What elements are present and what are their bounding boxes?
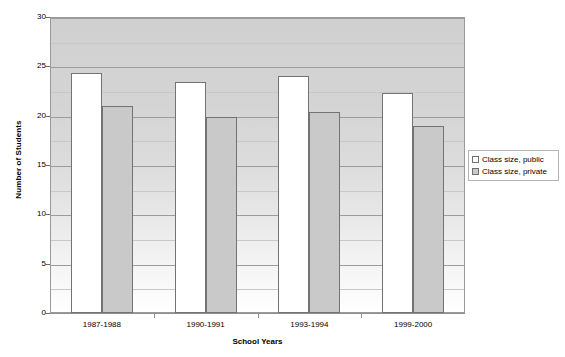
legend-item-private[interactable]: Class size, private xyxy=(472,165,555,177)
y-tick-label: 5 xyxy=(20,260,46,268)
x-axis-title: School Years xyxy=(50,337,465,346)
y-tick-mark xyxy=(45,66,50,67)
legend-label-private: Class size, private xyxy=(482,167,547,176)
bar-private-1993-1994[interactable] xyxy=(309,112,340,313)
gridline xyxy=(51,67,464,68)
gridline-minor xyxy=(51,43,464,44)
y-tick-label: 10 xyxy=(20,210,46,218)
y-tick-mark xyxy=(45,214,50,215)
y-tick-mark xyxy=(45,17,50,18)
x-tick-label: 1993-1994 xyxy=(254,320,364,329)
bar-public-1990-1991[interactable] xyxy=(175,82,206,313)
bar-chart: Number of Students 0510152025301987-1988… xyxy=(0,0,565,357)
bar-private-1990-1991[interactable] xyxy=(206,117,237,313)
legend-swatch-private-icon xyxy=(472,168,479,175)
x-tick-label: 1999-2000 xyxy=(358,320,468,329)
y-tick-mark xyxy=(45,116,50,117)
x-tick-label: 1990-1991 xyxy=(151,320,261,329)
y-tick-label: 25 xyxy=(20,62,46,70)
y-tick-label: 20 xyxy=(20,112,46,120)
bar-private-1987-1988[interactable] xyxy=(102,106,133,313)
bar-private-1999-2000[interactable] xyxy=(413,126,444,313)
legend-swatch-public-icon xyxy=(472,156,479,163)
bar-public-1987-1988[interactable] xyxy=(71,73,102,313)
y-tick-label: 15 xyxy=(20,161,46,169)
legend-item-public[interactable]: Class size, public xyxy=(472,153,555,165)
chart-legend: Class size, public Class size, private xyxy=(468,150,559,181)
legend-label-public: Class size, public xyxy=(482,155,544,164)
y-tick-mark xyxy=(45,165,50,166)
gridline xyxy=(51,18,464,19)
y-tick-label: 0 xyxy=(20,309,46,317)
x-axis-baseline xyxy=(50,313,465,314)
y-tick-label: 30 xyxy=(20,13,46,21)
x-tick-label: 1987-1988 xyxy=(47,320,157,329)
bar-public-1999-2000[interactable] xyxy=(382,93,413,313)
y-tick-mark xyxy=(45,264,50,265)
bar-public-1993-1994[interactable] xyxy=(278,76,309,313)
